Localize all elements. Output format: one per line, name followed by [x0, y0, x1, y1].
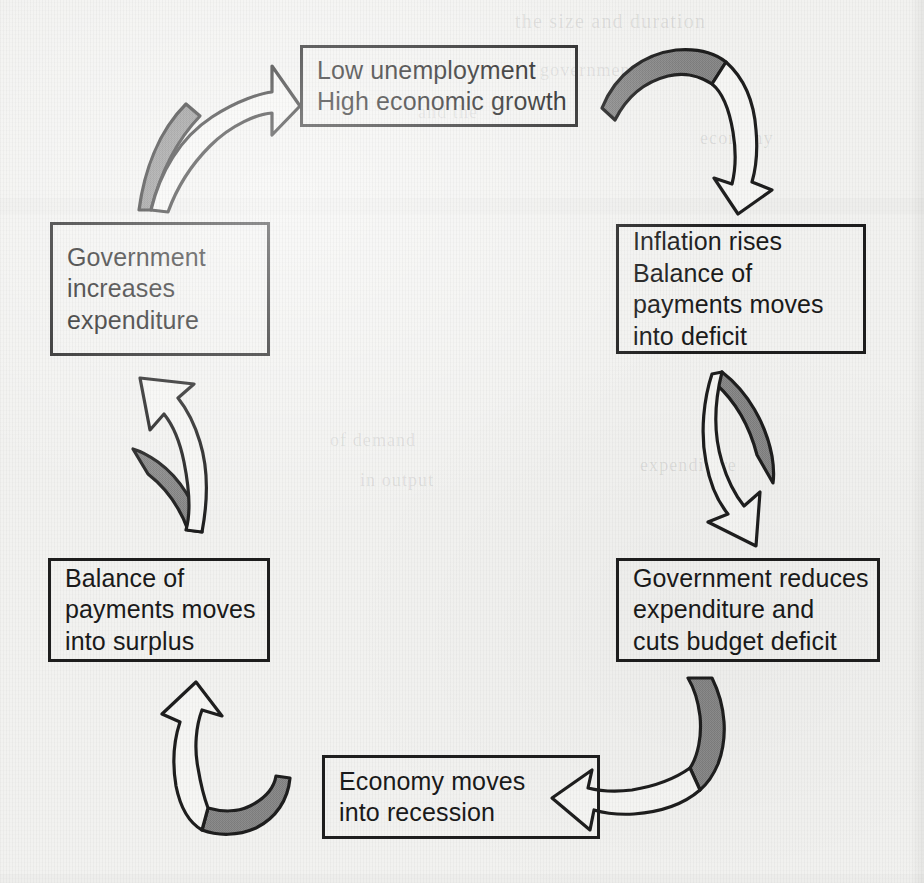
diagram-page: the size and duration were particularly …: [0, 0, 924, 883]
node-economy-recession: Economy moves into recession: [322, 755, 600, 839]
node-government-increases-expenditure-label: Government increases expenditure: [53, 242, 214, 337]
node-inflation-rises: Inflation rises Balance of payments move…: [616, 224, 866, 354]
arrow-top-right: [602, 50, 772, 214]
arrow-left: [133, 378, 206, 532]
node-government-reduces-expenditure: Government reduces expenditure and cuts …: [616, 558, 880, 662]
cycle-arrows: [0, 0, 924, 883]
node-government-reduces-expenditure-label: Government reduces expenditure and cuts …: [619, 563, 877, 658]
node-low-unemployment: Low unemployment High economic growth: [300, 45, 578, 127]
arrow-top-left: [139, 66, 300, 212]
node-balance-of-payments-surplus-label: Balance of payments moves into surplus: [51, 563, 264, 658]
node-government-increases-expenditure: Government increases expenditure: [50, 222, 270, 356]
node-economy-recession-label: Economy moves into recession: [325, 766, 533, 829]
node-low-unemployment-label: Low unemployment High economic growth: [303, 55, 575, 118]
page-right-edge: [910, 0, 924, 883]
arrow-bottom-left: [162, 682, 290, 834]
arrow-right: [703, 372, 774, 546]
node-inflation-rises-label: Inflation rises Balance of payments move…: [619, 226, 832, 352]
node-balance-of-payments-surplus: Balance of payments moves into surplus: [48, 558, 270, 662]
